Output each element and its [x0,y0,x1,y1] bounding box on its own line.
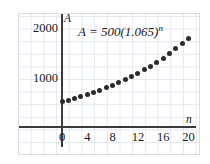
equation-base: A = 500(1.065) [78,24,158,39]
x-tick-label-12: 12 [128,130,148,145]
equation-annotation: A = 500(1.065)n [78,23,163,40]
data-point [161,56,166,61]
x-tick-label-20: 20 [179,130,199,145]
x-axis-title: n [186,113,192,125]
x-tick-label-4: 4 [77,130,97,145]
x-tick-label-0: 0 [52,130,72,145]
equation-exponent: n [158,23,163,33]
data-point [85,92,90,97]
data-point [148,64,153,69]
graph-figure: 2000 1000 A n A = 500(1.065)n 048121620 [0,0,210,164]
y-tick-label-2000: 2000 [12,21,58,36]
data-point [60,99,65,104]
data-point [110,83,115,88]
data-point [66,98,71,103]
x-tick-label-8: 8 [103,130,123,145]
y-tick-label-1000: 1000 [12,71,58,86]
data-point [180,41,185,46]
data-point [186,36,191,41]
x-axis-line [19,126,196,128]
x-tick-label-16: 16 [153,130,173,145]
y-axis-title: A [64,12,71,24]
